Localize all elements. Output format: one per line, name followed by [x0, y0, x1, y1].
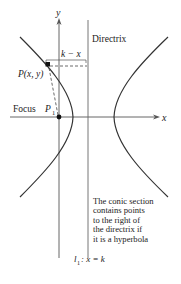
- focus-point: [57, 115, 62, 120]
- distance-label: k − x: [61, 49, 81, 59]
- focus-point-subscript: 1: [52, 109, 55, 116]
- focus-label: Focus: [13, 104, 36, 114]
- point-p: [46, 62, 51, 67]
- point-p-label: P(x, y): [17, 69, 43, 80]
- directrix-label: Directrix: [92, 34, 127, 44]
- line-subscript: 1: [77, 260, 80, 266]
- focus-point-label: P: [44, 104, 51, 114]
- line-equation: : x = k: [81, 254, 106, 264]
- x-axis-label: x: [161, 112, 167, 123]
- note-line: it is a hyperbola: [93, 235, 181, 244]
- distance-bracket: [46, 60, 86, 63]
- hyperbola-note: The conic section contains points to the…: [93, 197, 181, 244]
- y-axis-label: y: [55, 7, 61, 18]
